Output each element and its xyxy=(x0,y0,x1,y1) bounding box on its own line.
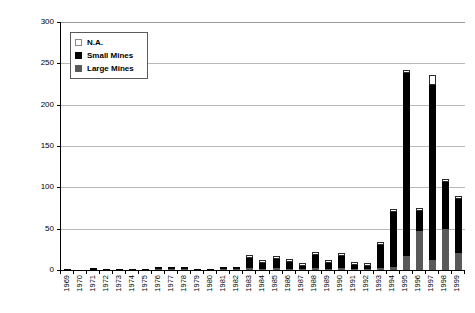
bar-slot xyxy=(270,22,283,270)
bar-1997 xyxy=(429,75,436,270)
x-label-1987: 1987 xyxy=(297,275,305,292)
x-label-slot: 1997 xyxy=(425,274,438,313)
bar-slot xyxy=(204,22,217,270)
bar-1986 xyxy=(286,259,293,270)
x-axis-labels: 1969197019711972197319741975197619771978… xyxy=(60,274,464,313)
y-label-250: 250 xyxy=(28,59,54,67)
y-label-150: 150 xyxy=(28,142,54,150)
bar-slot xyxy=(426,22,439,270)
bar-segment-large-mines xyxy=(442,229,449,270)
bar-segment-large-mines xyxy=(403,256,410,270)
bar-chart: Number of accidents 300 250 200 150 100 … xyxy=(0,0,475,313)
y-label-300: 300 xyxy=(28,18,54,26)
bar-segment-large-mines xyxy=(455,253,462,270)
bar-segment-small-mines xyxy=(403,73,410,256)
x-label-slot: 1990 xyxy=(334,274,347,313)
x-label-slot: 1977 xyxy=(164,274,177,313)
x-label-slot: 1988 xyxy=(308,274,321,313)
x-label-slot: 1985 xyxy=(269,274,282,313)
x-label-1983: 1983 xyxy=(245,275,253,292)
x-label-slot: 1970 xyxy=(73,274,86,313)
x-label-slot: 1992 xyxy=(360,274,373,313)
x-label-1995: 1995 xyxy=(402,275,410,292)
legend-swatch-small-mines-icon xyxy=(75,52,82,59)
bar-1999 xyxy=(455,196,462,270)
legend: N.A. Small Mines Large Mines xyxy=(70,32,148,79)
bar-segment-large-mines xyxy=(429,260,436,270)
legend-item-na: N.A. xyxy=(75,36,143,49)
bar-slot xyxy=(256,22,269,270)
x-label-slot: 1971 xyxy=(86,274,99,313)
x-label-slot: 1996 xyxy=(412,274,425,313)
bar-slot xyxy=(165,22,178,270)
bar-segment-small-mines xyxy=(246,258,253,268)
x-label-slot: 1984 xyxy=(255,274,268,313)
bar-slot xyxy=(452,22,465,270)
x-label-slot: 1973 xyxy=(112,274,125,313)
x-label-slot: 1987 xyxy=(295,274,308,313)
legend-item-small-mines: Small Mines xyxy=(75,49,143,62)
legend-item-large-mines: Large Mines xyxy=(75,62,143,75)
bar-1984 xyxy=(259,260,266,270)
x-label-1991: 1991 xyxy=(349,275,357,292)
bar-segment-small-mines xyxy=(286,262,293,269)
x-label-1982: 1982 xyxy=(232,275,240,292)
x-label-1970: 1970 xyxy=(76,275,84,292)
x-label-1990: 1990 xyxy=(336,275,344,292)
x-label-1978: 1978 xyxy=(180,275,188,292)
bar-1983 xyxy=(246,255,253,270)
bar-segment-small-mines xyxy=(429,85,436,260)
bar-slot xyxy=(374,22,387,270)
x-label-slot: 1994 xyxy=(386,274,399,313)
bar-slot xyxy=(413,22,426,270)
bar-1989 xyxy=(325,260,332,270)
bar-segment-small-mines xyxy=(273,259,280,267)
x-label-1999: 1999 xyxy=(454,275,462,292)
bar-slot xyxy=(387,22,400,270)
bar-segment-small-mines xyxy=(390,212,397,267)
bar-segment-small-mines xyxy=(416,211,423,232)
x-label-1980: 1980 xyxy=(206,275,214,292)
bar-1991 xyxy=(351,262,358,270)
x-label-1997: 1997 xyxy=(428,275,436,292)
bar-1988 xyxy=(312,252,319,270)
bar-slot xyxy=(283,22,296,270)
x-label-slot: 1998 xyxy=(438,274,451,313)
bar-1990 xyxy=(338,253,345,270)
bar-1992 xyxy=(364,263,371,270)
x-label-slot: 1974 xyxy=(125,274,138,313)
y-label-50: 50 xyxy=(28,225,54,233)
x-label-1998: 1998 xyxy=(441,275,449,292)
x-label-1969: 1969 xyxy=(63,275,71,292)
x-label-1971: 1971 xyxy=(89,275,97,292)
legend-label-na: N.A. xyxy=(87,39,103,47)
x-label-1979: 1979 xyxy=(193,275,201,292)
bar-segment-small-mines xyxy=(377,245,384,268)
legend-swatch-large-mines-icon xyxy=(75,65,82,72)
bar-slot xyxy=(152,22,165,270)
x-label-slot: 1976 xyxy=(151,274,164,313)
x-label-1988: 1988 xyxy=(310,275,318,292)
x-label-1973: 1973 xyxy=(115,275,123,292)
bar-slot xyxy=(348,22,361,270)
x-label-slot: 1979 xyxy=(190,274,203,313)
x-label-slot: 1975 xyxy=(138,274,151,313)
bar-slot xyxy=(230,22,243,270)
x-label-slot: 1969 xyxy=(60,274,73,313)
x-label-slot: 1995 xyxy=(399,274,412,313)
bar-segment-small-mines xyxy=(442,182,449,228)
legend-label-small-mines: Small Mines xyxy=(87,52,133,60)
bar-slot xyxy=(322,22,335,270)
bar-slot xyxy=(309,22,322,270)
bar-1993 xyxy=(377,242,384,270)
bar-slot xyxy=(361,22,374,270)
bar-slot xyxy=(296,22,309,270)
bar-segment-small-mines xyxy=(312,255,319,267)
x-label-1985: 1985 xyxy=(271,275,279,292)
bar-1985 xyxy=(273,256,280,270)
x-label-slot: 1978 xyxy=(177,274,190,313)
bar-segment-large-mines xyxy=(416,231,423,270)
bar-1995 xyxy=(403,70,410,270)
bar-slot xyxy=(243,22,256,270)
x-label-slot: 1983 xyxy=(242,274,255,313)
